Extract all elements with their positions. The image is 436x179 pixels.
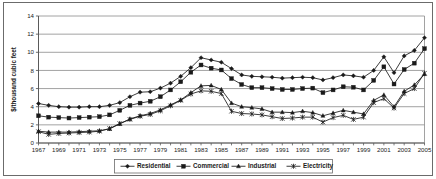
marker-square bbox=[372, 78, 376, 82]
x-tick-label: 1967 bbox=[32, 146, 46, 153]
marker-square bbox=[199, 63, 203, 67]
x-tick-label: 1981 bbox=[174, 146, 188, 153]
marker-square bbox=[331, 88, 335, 92]
x-tick-label: 1983 bbox=[194, 146, 208, 153]
marker-square bbox=[423, 47, 427, 51]
x-tick-label: 1975 bbox=[113, 146, 127, 153]
legend-label: Residential bbox=[137, 162, 171, 169]
marker-square bbox=[189, 70, 193, 74]
x-tick-label: 1989 bbox=[255, 146, 269, 153]
y-tick-label: 6 bbox=[31, 85, 35, 92]
x-tick-label: 1993 bbox=[296, 146, 310, 153]
marker-square bbox=[87, 115, 91, 119]
marker-square bbox=[138, 101, 142, 105]
marker-square bbox=[148, 99, 152, 103]
marker-square bbox=[260, 86, 264, 90]
marker-square bbox=[230, 77, 234, 81]
marker-square bbox=[301, 87, 305, 91]
y-tick-label: 14 bbox=[27, 12, 34, 19]
marker-square bbox=[240, 83, 244, 87]
y-tick-label: 8 bbox=[31, 67, 35, 74]
legend-label: Commercial bbox=[193, 162, 229, 169]
marker-square bbox=[402, 68, 406, 72]
marker-square bbox=[182, 164, 186, 168]
marker-square bbox=[47, 115, 51, 119]
x-tick-label: 1971 bbox=[72, 146, 86, 153]
marker-square bbox=[158, 95, 162, 99]
x-tick-label: 1997 bbox=[336, 146, 350, 153]
marker-square bbox=[37, 114, 41, 118]
marker-square bbox=[392, 82, 396, 86]
marker-square bbox=[321, 91, 325, 95]
x-tick-label: 1977 bbox=[133, 146, 147, 153]
x-tick-label: 1985 bbox=[215, 146, 229, 153]
x-tick-label: 1987 bbox=[235, 146, 249, 153]
marker-square bbox=[290, 88, 294, 92]
x-tick-label: 1979 bbox=[154, 146, 168, 153]
x-tick-label: 1995 bbox=[316, 146, 330, 153]
marker-square bbox=[97, 115, 101, 119]
legend-label: Industrial bbox=[248, 162, 277, 169]
y-tick-label: 12 bbox=[27, 30, 34, 37]
marker-square bbox=[219, 68, 223, 72]
marker-square bbox=[169, 88, 173, 92]
marker-square bbox=[57, 116, 61, 120]
marker-square bbox=[270, 87, 274, 91]
marker-square bbox=[209, 66, 213, 70]
y-tick-label: 2 bbox=[31, 121, 35, 128]
chart-figure: 0246810121419671969197119731975197719791… bbox=[0, 0, 436, 179]
y-tick-label: 0 bbox=[31, 139, 35, 146]
marker-square bbox=[412, 61, 416, 65]
x-tick-label: 1969 bbox=[52, 146, 66, 153]
chart-legend: ResidentialCommercialIndustrialElectrici… bbox=[115, 160, 334, 174]
marker-square bbox=[128, 103, 132, 107]
y-axis-title: $/thousand cubic feet bbox=[10, 46, 18, 112]
marker-square bbox=[311, 86, 315, 90]
x-tick-label: 2001 bbox=[377, 146, 391, 153]
y-tick-label: 10 bbox=[27, 48, 34, 55]
x-tick-label: 1973 bbox=[93, 146, 107, 153]
marker-square bbox=[67, 116, 71, 120]
x-tick-label: 1999 bbox=[357, 146, 371, 153]
marker-square bbox=[118, 108, 122, 112]
marker-square bbox=[382, 65, 386, 69]
marker-square bbox=[351, 85, 355, 89]
marker-square bbox=[250, 86, 254, 90]
marker-square bbox=[362, 88, 366, 92]
marker-square bbox=[341, 85, 345, 89]
legend-label: Electricity bbox=[303, 162, 334, 170]
y-tick-label: 4 bbox=[31, 103, 35, 110]
marker-square bbox=[77, 116, 81, 120]
marker-square bbox=[280, 88, 284, 92]
chart-plot: 0246810121419671969197119731975197719791… bbox=[0, 0, 436, 179]
x-tick-label: 1991 bbox=[276, 146, 290, 153]
marker-square bbox=[179, 80, 183, 84]
marker-square bbox=[108, 113, 112, 117]
x-tick-label: 2005 bbox=[418, 146, 432, 153]
x-tick-label: 2003 bbox=[397, 146, 411, 153]
